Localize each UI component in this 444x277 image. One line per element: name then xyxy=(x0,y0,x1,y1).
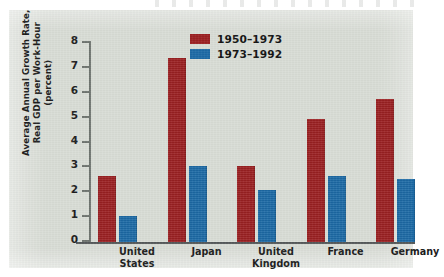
y-axis-title-line-2: Real GDP per Work-Hour xyxy=(32,0,43,178)
y-axis-tick: 8 xyxy=(82,41,89,43)
scan-artifact xyxy=(150,0,420,7)
bar xyxy=(397,179,415,242)
x-axis-category-label-line: Kingdom xyxy=(216,258,336,270)
y-axis-tick: 3 xyxy=(82,165,89,167)
y-axis-title: Average Annual Growth Rate, Real GDP per… xyxy=(21,0,55,178)
y-axis-tick-label: 0 xyxy=(71,233,78,246)
y-axis-title-line-3: (percent) xyxy=(44,0,55,178)
plot-area: 012345678UnitedStatesJapanUnitedKingdomF… xyxy=(89,43,409,242)
y-axis-tick-label: 1 xyxy=(71,208,78,221)
y-axis-tick-label: 3 xyxy=(71,158,78,171)
y-axis-tick-label: 5 xyxy=(71,109,78,122)
bar xyxy=(168,58,186,242)
y-axis-tick-label: 4 xyxy=(71,134,78,147)
bar xyxy=(237,166,255,242)
bar xyxy=(98,176,116,242)
bar xyxy=(307,119,325,242)
bar xyxy=(189,166,207,242)
x-axis-line xyxy=(76,242,415,244)
bar xyxy=(376,99,394,242)
y-axis-tick-label: 7 xyxy=(71,59,78,72)
bar xyxy=(119,216,137,242)
x-axis-category-label: Germany xyxy=(355,246,444,258)
y-axis-tick-label: 6 xyxy=(71,84,78,97)
y-axis-tick-label: 2 xyxy=(71,183,78,196)
y-axis-title-line-1: Average Annual Growth Rate, xyxy=(21,0,32,178)
y-axis-tick: 1 xyxy=(82,215,89,217)
y-axis-tick-label: 8 xyxy=(71,34,78,47)
y-axis-tick: 6 xyxy=(82,91,89,93)
x-axis-category-label-line: States xyxy=(77,258,197,270)
bar xyxy=(328,176,346,242)
x-axis-category-label-line: Germany xyxy=(355,246,444,258)
y-axis-tick: 0 xyxy=(82,240,89,242)
y-axis-tick: 2 xyxy=(82,190,89,192)
bar xyxy=(258,190,276,242)
legend-swatch-red-icon xyxy=(190,34,210,44)
y-axis-tick: 7 xyxy=(82,66,89,68)
y-axis-tick: 4 xyxy=(82,141,89,143)
y-axis-tick: 5 xyxy=(82,116,89,118)
bar-chart-panel: Average Annual Growth Rate, Real GDP per… xyxy=(9,10,413,268)
